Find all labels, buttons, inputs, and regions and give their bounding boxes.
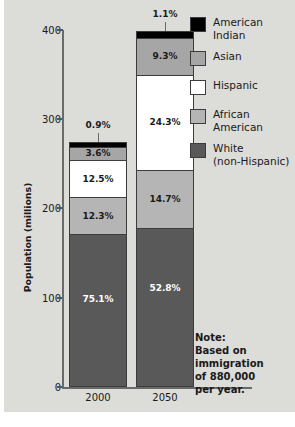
x-tick-label-2050: 2050 [135, 392, 195, 403]
legend-swatch-white-icon [190, 143, 206, 158]
legend-label-white: White (non-Hispanic) [213, 142, 289, 167]
segment-2050-white-label: 52.8% [149, 284, 180, 293]
leader-line-2050 [165, 22, 166, 31]
segment-2050-african-american[interactable]: 14.7% [137, 171, 193, 229]
segment-2000-white-label: 75.1% [82, 295, 113, 304]
bar-2000[interactable]: 3.6% 12.5% 12.3% 75.1% [69, 142, 127, 387]
legend-item-asian[interactable]: Asian [190, 50, 295, 66]
legend-label-african-american: African American [213, 108, 263, 133]
callout-2000-american-indian: 0.9% [68, 120, 128, 130]
legend-swatch-asian-icon [190, 51, 206, 66]
legend-swatch-african-american-icon [190, 109, 206, 124]
legend: American Indian Asian Hispanic African A… [190, 16, 295, 176]
y-axis-line [62, 30, 64, 388]
note-text: Note: Based on immigration of 880,000 pe… [195, 331, 264, 396]
legend-label-hispanic: Hispanic [213, 79, 258, 92]
segment-2000-african-american[interactable]: 12.3% [70, 198, 126, 235]
segment-2050-african-american-label: 14.7% [149, 195, 180, 204]
segment-2050-hispanic-label: 24.3% [149, 118, 180, 127]
leader-line-2000 [98, 133, 99, 142]
legend-item-hispanic[interactable]: Hispanic [190, 79, 295, 95]
chart-page: Population (millions) 400 300 200 100 0 … [0, 0, 295, 427]
legend-label-asian: Asian [213, 50, 242, 63]
figure-panel: Population (millions) 400 300 200 100 0 … [4, 0, 295, 412]
segment-2000-asian[interactable]: 3.6% [70, 148, 126, 161]
segment-2000-hispanic-label: 12.5% [82, 175, 113, 184]
legend-label-american-indian: American Indian [213, 16, 263, 41]
segment-2000-asian-label: 3.6% [86, 149, 111, 158]
segment-2000-african-american-label: 12.3% [82, 212, 113, 221]
legend-swatch-american-indian-icon [190, 17, 206, 32]
legend-item-african-american[interactable]: African American [190, 108, 295, 133]
bar-2050[interactable]: 9.3% 24.3% 14.7% 52.8% [136, 31, 194, 387]
segment-2000-hispanic[interactable]: 12.5% [70, 161, 126, 199]
segment-2000-white[interactable]: 75.1% [70, 235, 126, 386]
y-axis-title: Population (millions) [22, 168, 33, 308]
segment-2050-white[interactable]: 52.8% [137, 229, 193, 386]
segment-2050-asian[interactable]: 9.3% [137, 39, 193, 76]
x-tick-label-2000: 2000 [68, 392, 128, 403]
legend-item-american-indian[interactable]: American Indian [190, 16, 295, 41]
callout-2050-american-indian: 1.1% [135, 9, 195, 19]
segment-2050-asian-label: 9.3% [153, 52, 178, 61]
segment-2050-american-indian[interactable] [137, 32, 193, 39]
legend-swatch-hispanic-icon [190, 80, 206, 95]
segment-2050-hispanic[interactable]: 24.3% [137, 76, 193, 171]
legend-item-white[interactable]: White (non-Hispanic) [190, 142, 295, 167]
